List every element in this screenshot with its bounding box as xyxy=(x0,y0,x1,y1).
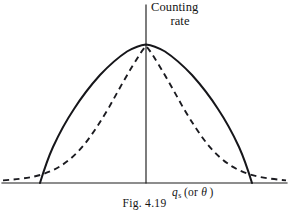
figure-caption: Fig. 4.19 xyxy=(0,197,289,209)
figure-container: Counting rate qs(or θ) Fig. 4.19 xyxy=(0,0,289,214)
plot-area xyxy=(0,0,289,214)
y-axis-label-line-1: Counting xyxy=(151,1,223,15)
y-axis-label-line-2: rate xyxy=(151,15,223,29)
y-axis-label: Counting rate xyxy=(151,1,223,28)
